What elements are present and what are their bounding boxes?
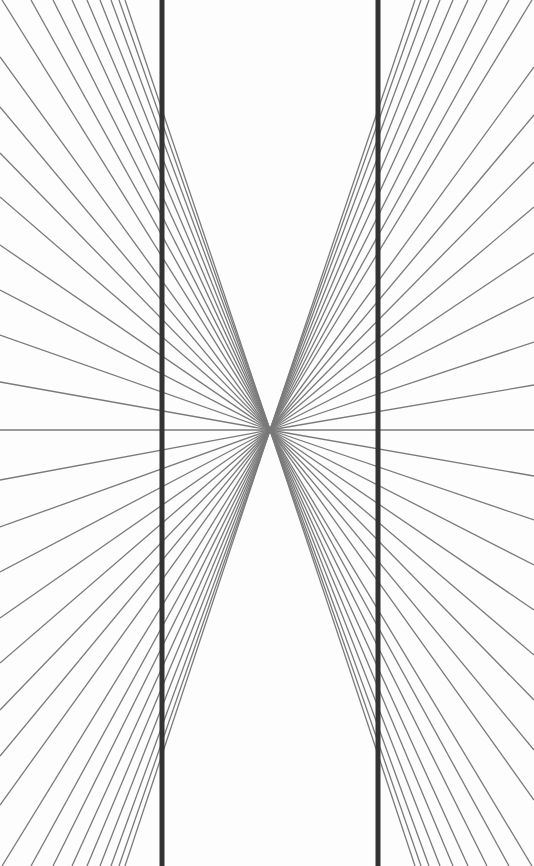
- hering-illusion-figure: [0, 0, 534, 866]
- left-vertical-bar: [160, 0, 165, 866]
- right-vertical-bar: [376, 0, 381, 866]
